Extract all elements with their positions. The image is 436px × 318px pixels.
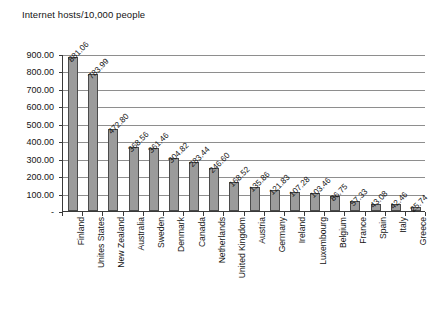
x-axis-category-label: Luxembourg [318,217,328,265]
x-axis-tick-mark [183,212,184,216]
x-axis-tick-mark [82,212,83,216]
x-axis-tick-mark [284,212,285,216]
bar-value-label: 881.06 [66,40,90,64]
x-axis-category-label: Australia [136,217,146,250]
y-axis-tick-label: 300.00 [26,155,54,165]
x-axis-category-label: Greece [418,217,428,245]
x-axis-category-label: United Kingdom [237,217,247,278]
x-axis-category-label: Austria [257,217,267,244]
x-axis-tick-mark [344,212,345,216]
x-axis-category-label: New Zealand [116,217,126,268]
y-axis-tick-label: 900.00 [26,50,54,60]
x-axis-tick-mark [405,212,406,216]
bar-chart: Internet hosts/10,000 people 900.00800.0… [0,0,436,318]
bar-value-label: 86.75 [328,182,349,203]
x-axis-category-label: Denmark [176,217,186,252]
x-axis-category-label: Finland [76,217,86,245]
y-axis-tick-label: 800.00 [26,67,54,77]
bar-value-label: 43.08 [369,190,390,211]
bar-value-label: 783.99 [86,57,110,81]
x-axis-category-label: Belgium [338,217,348,248]
x-axis-tick-mark [385,212,386,216]
x-axis-category-label: Sweden [156,217,166,248]
x-axis-tick-mark [143,212,144,216]
bar-value-label: 283.44 [187,144,211,168]
x-axis-category-label: Italy [398,217,408,233]
x-axis-category-label: Ireland [297,217,307,243]
bar-value-label: 361.46 [147,131,171,155]
x-axis-tick-mark [324,212,325,216]
x-axis-category-label: Germany [277,217,287,252]
y-axis-tick-label: 700.00 [26,85,54,95]
y-axis-tick-label: 600.00 [26,102,54,112]
y-axis-tick-label: 100.00 [26,190,54,200]
bar-value-label: 42.46 [389,190,410,211]
x-axis-category-labels: FinlandUnites StatesNew ZealandAustralia… [62,217,425,312]
y-axis-tick-label: 400.00 [26,137,54,147]
y-axis-tick-label: - [51,207,54,217]
x-axis-tick-mark [264,212,265,216]
bar-value-label: 57.33 [349,187,370,208]
x-axis-tick-mark [304,212,305,216]
bar-value-label: 246.60 [207,151,231,175]
y-axis-tick-labels: 900.00800.00700.00600.00500.00400.00300.… [0,55,58,212]
bar-value-label: 472.80 [107,111,131,135]
x-axis-tick-mark [244,212,245,216]
x-axis-tick-mark [425,212,426,216]
x-axis-category-label: Unites States [96,217,106,268]
x-axis-tick-mark [62,212,63,216]
bar-value-label: 168.52 [228,165,252,189]
bar-value-label: 25.74 [409,193,430,214]
x-axis-tick-mark [203,212,204,216]
y-axis-tick-label: 200.00 [26,172,54,182]
data-value-labels: 881.06783.99472.80368.56361.46304.82283.… [62,0,436,215]
x-axis-category-label: Canada [197,217,207,247]
x-axis-category-label: Spain [378,217,388,239]
x-axis-tick-mark [102,212,103,216]
x-axis-category-label: France [358,217,368,244]
x-axis-tick-mark [123,212,124,216]
x-axis-category-label: Netherlands [217,217,227,263]
x-axis-tick-mark [223,212,224,216]
x-axis-tick-mark [163,212,164,216]
x-axis-tick-mark [365,212,366,216]
y-axis-tick-label: 500.00 [26,120,54,130]
